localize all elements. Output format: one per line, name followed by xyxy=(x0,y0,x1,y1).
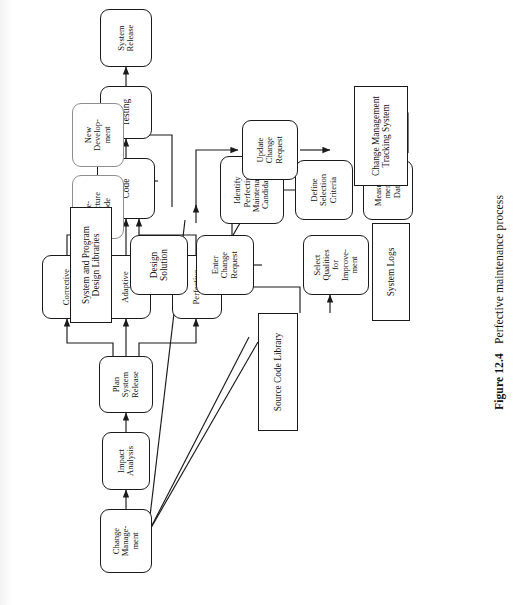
node-change-management-label: Change Manage- ment xyxy=(112,524,140,559)
node-select-qualities-label: Select Qualities for Improve- ment xyxy=(313,247,359,283)
node-select-qualities[interactable]: Select Qualities for Improve- ment xyxy=(303,235,369,295)
node-impact-analysis-label: Impact Analysis xyxy=(117,444,136,478)
node-system-program-design-libraries-label: System and Program Design Libraries xyxy=(81,224,101,306)
node-enter-change-request[interactable]: Enter Change Request xyxy=(196,235,254,295)
edge-change-management-to-design-solution xyxy=(148,337,249,533)
node-change-management-tracking-system-label: Change Management Tracking System xyxy=(371,94,391,178)
node-define-selection-criteria-label: Define Selection Criteria xyxy=(310,172,338,208)
node-change-management[interactable]: Change Manage- ment xyxy=(100,509,152,573)
node-new-development[interactable]: New Develop- ment xyxy=(72,103,124,167)
node-update-change-request-label: Update Change Request xyxy=(256,134,284,166)
figure-page: Change Manage- ment Impact Analysis Plan… xyxy=(0,0,525,605)
edge-plan-to-perfective xyxy=(139,319,196,356)
node-source-code-library[interactable]: Source Code Library xyxy=(258,313,298,431)
figure-caption: Figure 12.4Perfective maintenance proces… xyxy=(483,0,517,605)
figure-number: Figure 12.4 xyxy=(494,353,507,410)
node-enter-change-request-label: Enter Change Request xyxy=(211,249,239,281)
node-change-management-tracking-system[interactable]: Change Management Tracking System xyxy=(354,86,408,186)
node-design-solution-label: Design Solution xyxy=(149,247,169,283)
node-define-selection-criteria[interactable]: Define Selection Criteria xyxy=(295,160,353,220)
node-system-logs-label: System Logs xyxy=(386,246,396,299)
node-system-program-design-libraries[interactable]: System and Program Design Libraries xyxy=(70,207,112,323)
node-source-code-library-label: Source Code Library xyxy=(273,331,283,414)
node-new-development-label: New Develop- ment xyxy=(84,117,112,153)
flowchart-canvas: Change Manage- ment Impact Analysis Plan… xyxy=(0,0,525,605)
figure-caption-text: Perfective maintenance process xyxy=(494,195,507,344)
node-plan-system-release-label: Plan System Release xyxy=(112,369,140,400)
node-system-logs[interactable]: System Logs xyxy=(372,223,410,321)
node-plan-system-release[interactable]: Plan System Release xyxy=(99,356,153,413)
node-update-change-request[interactable]: Update Change Request xyxy=(242,120,298,180)
node-design-solution[interactable]: Design Solution xyxy=(130,235,188,295)
node-impact-analysis[interactable]: Impact Analysis xyxy=(102,432,150,490)
edge-plan-to-corrective xyxy=(67,319,113,356)
node-system-release[interactable]: System Release xyxy=(100,9,152,67)
node-system-release-label: System Release xyxy=(117,23,136,54)
edge-change-management-to-source-code-library xyxy=(148,342,258,533)
